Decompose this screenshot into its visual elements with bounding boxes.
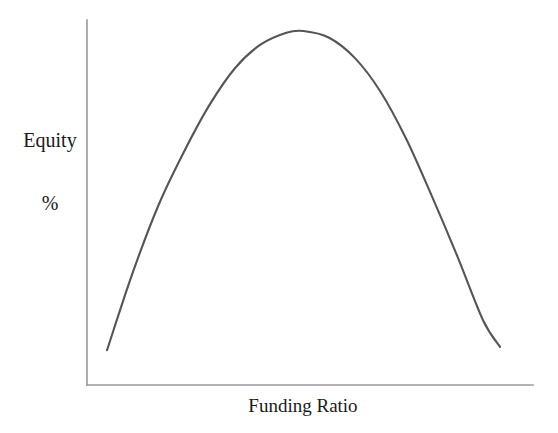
- y-axis-label-line-1: Equity: [14, 130, 86, 151]
- y-axis-label: Equity %: [14, 88, 86, 256]
- x-axis-label: Funding Ratio: [183, 396, 423, 416]
- equity-curve: [107, 31, 500, 351]
- chart-figure: Equity % Funding Ratio: [0, 0, 558, 433]
- y-axis-label-line-2: %: [14, 193, 86, 214]
